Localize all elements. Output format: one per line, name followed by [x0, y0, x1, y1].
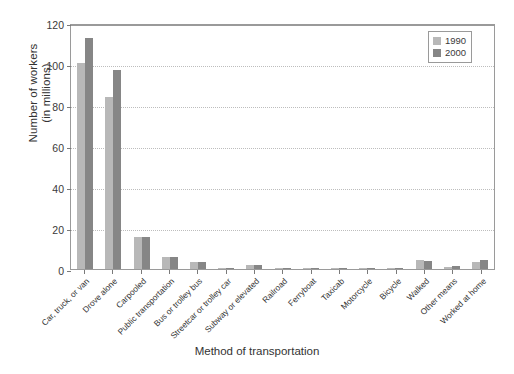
y-axis-tick-label: 40	[18, 183, 71, 195]
legend-swatch-1990	[433, 37, 441, 45]
legend-item-1990: 1990	[433, 35, 466, 47]
y-axis-tick-label: 20	[18, 224, 71, 236]
x-axis-label-cell: Bicycle	[382, 274, 410, 344]
x-axis-label-cell: Taxicab	[325, 274, 353, 344]
legend-label-2000: 2000	[445, 48, 466, 58]
bar-1990	[105, 97, 113, 269]
bar-1990	[77, 63, 85, 269]
legend: 1990 2000	[428, 31, 472, 63]
y-axis-tick-label: 120	[18, 19, 71, 31]
bar-1990	[303, 268, 311, 269]
bar-chart-figure: Number of workers (in millions) 02040608…	[0, 0, 514, 374]
x-axis-labels: Car, truck, or vanDrove aloneCarpooledPu…	[70, 274, 495, 344]
bar-group	[156, 25, 184, 269]
y-axis-tick-label: 0	[18, 265, 71, 277]
bar-group	[381, 25, 409, 269]
legend-swatch-2000	[433, 49, 441, 57]
x-axis-label-cell: Worked at home	[467, 274, 495, 344]
bar-group	[71, 25, 99, 269]
bar-group	[353, 25, 381, 269]
bar-group	[184, 25, 212, 269]
bar-2000	[480, 260, 488, 269]
bar-2000	[85, 38, 93, 269]
y-axis-tick-label: 80	[18, 101, 71, 113]
bar-group	[127, 25, 155, 269]
x-axis-label-cell: Ferryboat	[297, 274, 325, 344]
legend-item-2000: 2000	[433, 47, 466, 59]
x-axis-label-cell: Railroad	[268, 274, 296, 344]
x-axis-tick-label-text: Car, truck, or van	[39, 276, 91, 328]
x-axis-title: Method of transportation	[0, 345, 514, 357]
bar-group	[325, 25, 353, 269]
legend-label-1990: 1990	[445, 36, 466, 46]
y-axis-tick-label: 60	[18, 142, 71, 154]
bar-group	[99, 25, 127, 269]
bar-1990	[218, 268, 226, 269]
x-axis-label-cell: Motorcycle	[353, 274, 381, 344]
y-axis-tick-label: 100	[18, 60, 71, 72]
x-axis-tick-label-text: Bicycle	[377, 276, 403, 302]
x-axis-label-cell: Subway or elevated	[240, 274, 268, 344]
